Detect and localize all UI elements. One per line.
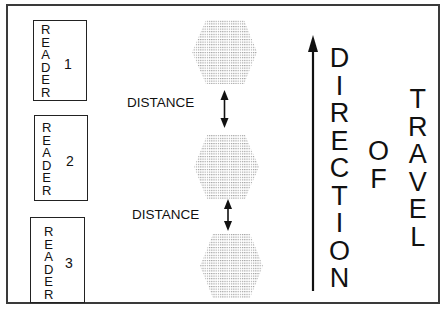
letter: E (331, 128, 349, 156)
reader-number: 3 (65, 255, 73, 271)
reader-label: R E A D E R (41, 24, 50, 100)
reader-box-1: R E A D E R 1 (33, 20, 87, 101)
arrow-up-icon (308, 35, 318, 291)
double-arrow-icon-2 (224, 199, 232, 231)
letter: O (368, 138, 389, 166)
reader-label: R E A D E R (42, 122, 51, 198)
letter: R (44, 289, 53, 302)
letter: R (42, 185, 51, 198)
letter: T (331, 183, 348, 211)
direction-word: D I R E C T I O N (329, 45, 350, 293)
reader-label: R E A D E R (44, 226, 53, 302)
letter: T (410, 86, 427, 114)
reader-box-3: R E A D E R 3 (30, 217, 85, 303)
letter: D (330, 45, 350, 73)
letter: O (329, 238, 350, 266)
letter: I (336, 210, 344, 238)
travel-word: T R A V E L (408, 86, 428, 251)
tag-hexagon-2 (194, 135, 259, 199)
letter: I (336, 73, 344, 101)
reader-number: 1 (64, 56, 72, 72)
reader-box-2: R E A D E R 2 (34, 115, 88, 201)
distance-label-2: DISTANCE (132, 207, 199, 222)
letter: E (409, 196, 427, 224)
letter: N (330, 265, 350, 293)
letter: F (370, 166, 387, 194)
letter: V (409, 169, 427, 197)
reader-number: 2 (66, 153, 74, 169)
tag-hexagon-1 (192, 20, 257, 84)
tag-hexagon-3 (200, 234, 263, 298)
letter: L (410, 224, 425, 252)
distance-label-1: DISTANCE (127, 95, 194, 110)
letter: A (409, 141, 427, 169)
letter: C (330, 155, 350, 183)
double-arrow-icon-1 (221, 90, 229, 128)
letter: R (41, 87, 50, 100)
letter: R (408, 114, 428, 142)
of-word: O F (368, 138, 389, 193)
letter: R (330, 100, 350, 128)
